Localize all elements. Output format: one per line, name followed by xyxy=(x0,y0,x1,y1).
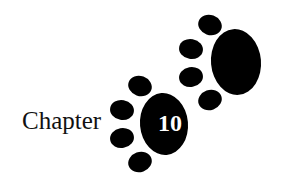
chapter-heading-art: Chapter 10 xyxy=(0,0,281,190)
toe-pad xyxy=(108,98,135,122)
toe-pad xyxy=(177,65,204,89)
chapter-word: Chapter xyxy=(22,107,102,134)
toe-pad xyxy=(125,72,154,99)
chapter-number: 10 xyxy=(158,110,182,136)
toe-pad xyxy=(177,37,204,61)
toe-pad xyxy=(195,86,224,113)
paw-print-upper xyxy=(177,11,263,113)
toe-pad xyxy=(108,126,135,150)
toe-pad xyxy=(125,148,154,175)
main-pad xyxy=(208,27,264,97)
toe-pad xyxy=(195,11,224,38)
